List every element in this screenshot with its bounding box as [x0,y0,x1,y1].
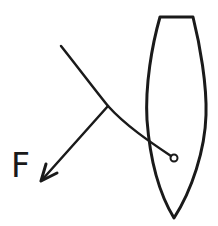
boat-hull [147,17,206,218]
force-arrow-shaft [41,106,108,181]
mast-circle [171,155,178,162]
sailboat-force-diagram: F [0,0,218,226]
force-label: F [11,149,30,182]
